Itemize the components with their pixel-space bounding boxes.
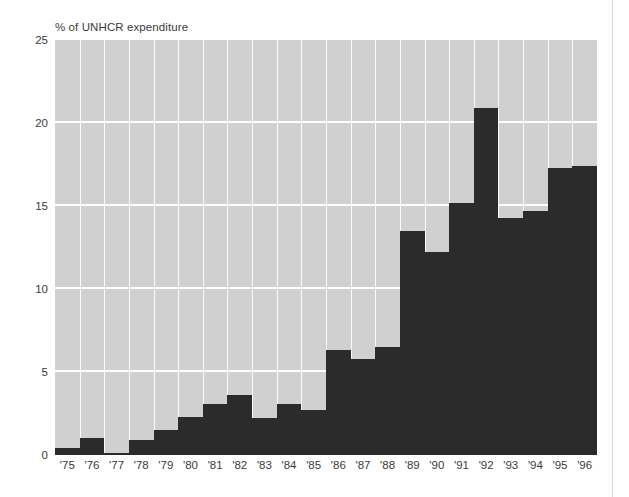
x-tick-label-75: '75 [55,459,80,471]
x-tick-label-80: '80 [178,459,203,471]
bar-93 [498,218,523,455]
x-tick-label-87: '87 [351,459,376,471]
x-tick-label-95: '95 [548,459,573,471]
x-tick-label-76: '76 [80,459,105,471]
bar-82 [227,395,252,455]
x-tick-label-81: '81 [203,459,228,471]
x-tick-label-86: '86 [326,459,351,471]
chart-screenshot: % of UNHCR expenditure 2520151050 '75'76… [0,0,629,497]
bar-87 [351,359,375,455]
y-tick-label-5: 5 [8,366,48,378]
x-tick-label-82: '82 [227,459,252,471]
x-tick-label-93: '93 [498,459,523,471]
x-tick-label-92: '92 [474,459,499,471]
y-tick-label-10: 10 [8,283,48,295]
bar-88 [375,347,400,455]
bar-92 [474,108,498,455]
x-tick-label-91: '91 [449,459,474,471]
bar-77 [104,453,129,455]
x-tick-label-90: '90 [425,459,450,471]
y-tick-label-25: 25 [8,34,48,46]
bar-95 [548,168,572,455]
bar-83 [252,418,277,455]
x-tick-label-88: '88 [375,459,400,471]
y-axis: 2520151050 [0,40,48,455]
bar-96 [572,166,597,455]
page-margin-rule [612,0,613,497]
x-tick-label-83: '83 [252,459,277,471]
bar-76 [80,438,104,455]
bar-89 [400,231,425,455]
bar-85 [301,410,326,455]
y-tick-label-15: 15 [8,200,48,212]
bar-series [55,40,597,455]
x-tick-label-85: '85 [301,459,326,471]
x-tick-label-79: '79 [154,459,179,471]
y-tick-label-20: 20 [8,117,48,129]
x-tick-label-78: '78 [129,459,154,471]
x-tick-label-77: '77 [104,459,129,471]
bar-94 [523,211,548,455]
bar-81 [203,404,227,455]
bar-84 [277,404,301,455]
bar-80 [178,417,203,455]
x-tick-label-89: '89 [400,459,425,471]
bar-75 [55,448,80,455]
bar-90 [425,252,449,455]
chart-title: % of UNHCR expenditure [55,21,188,33]
x-tick-label-96: '96 [572,459,597,471]
x-tick-label-94: '94 [523,459,548,471]
plot-area [55,40,597,455]
x-tick-label-84: '84 [277,459,302,471]
bar-86 [326,350,351,455]
bar-79 [154,430,178,455]
x-axis: '75'76'77'78'79'80'81'82'83'84'85'86'87'… [55,459,597,481]
bar-91 [449,203,474,455]
y-tick-label-0: 0 [8,449,48,461]
bar-78 [129,440,154,455]
